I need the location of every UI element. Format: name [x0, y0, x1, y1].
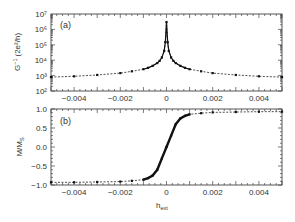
panel-b-label: (b)	[60, 116, 71, 126]
data-marker	[175, 62, 177, 64]
data-marker	[281, 76, 283, 78]
ylabel-b-sub: S	[19, 137, 25, 141]
data-marker	[212, 72, 214, 74]
data-marker	[96, 74, 98, 76]
data-marker	[184, 115, 186, 117]
data-marker	[156, 169, 158, 171]
data-marker	[163, 50, 165, 52]
x-tick-label: 0.004	[249, 94, 270, 103]
data-marker	[200, 112, 202, 114]
data-marker	[235, 111, 237, 113]
data-marker	[50, 181, 52, 183]
data-marker	[170, 56, 172, 58]
data-marker	[165, 146, 167, 148]
data-marker	[235, 74, 237, 76]
y-tick-label: 10⁴	[35, 56, 48, 65]
xlabel-sub: ext	[161, 205, 169, 211]
svg-text:G−1(2e²/h): G−1(2e²/h)	[12, 33, 22, 71]
y-tick-label: 0.5	[36, 124, 48, 133]
ylabel-b-main: M/M	[15, 141, 24, 157]
data-marker	[258, 111, 260, 113]
series-core	[143, 22, 189, 69]
data-marker	[165, 21, 167, 23]
data-marker	[164, 41, 166, 43]
ylabel-a-sup: −1	[12, 59, 18, 65]
data-marker	[131, 70, 133, 72]
data-marker	[172, 60, 174, 62]
data-marker	[212, 111, 214, 113]
data-marker	[189, 113, 191, 115]
data-marker	[179, 117, 181, 119]
data-marker	[158, 60, 160, 62]
x-tick-label: −0.004	[62, 94, 87, 103]
x-tick-label: 0.004	[249, 188, 270, 197]
data-marker	[50, 76, 52, 78]
svg-text:M/MS: M/MS	[15, 137, 25, 157]
y-tick-label: 10⁷	[35, 10, 47, 19]
y-tick-label: −0.5	[31, 162, 47, 171]
data-marker	[131, 180, 133, 182]
panel-a-plot: −0.004−0.00200.0020.00410²10³10⁴10⁵10⁶10…	[35, 10, 283, 103]
x-tick-label: 0.002	[203, 188, 224, 197]
data-marker	[168, 50, 170, 52]
data-marker	[175, 123, 177, 125]
data-marker	[147, 177, 149, 179]
data-marker	[179, 65, 181, 67]
x-tick-label: 0	[164, 188, 169, 197]
x-tick-label: −0.002	[108, 94, 133, 103]
data-marker	[184, 67, 186, 69]
y-tick-label: 0.0	[36, 143, 48, 152]
y-tick-label: 10⁵	[35, 41, 47, 50]
data-marker	[142, 179, 144, 181]
data-marker	[73, 181, 75, 183]
y-tick-label: −1.0	[31, 181, 47, 190]
y-tick-label: 10³	[35, 72, 47, 81]
data-marker	[170, 135, 172, 137]
panel-a-label: (a)	[60, 20, 71, 30]
data-marker	[152, 65, 154, 67]
y-axis-label-a: G−1(2e²/h)	[12, 33, 22, 71]
data-marker	[258, 75, 260, 77]
data-marker	[156, 62, 158, 64]
data-marker	[161, 157, 163, 159]
figure: −0.004−0.00200.0020.00410²10³10⁴10⁵10⁶10…	[0, 0, 295, 222]
y-tick-label: 10⁶	[35, 25, 47, 34]
data-marker	[161, 56, 163, 58]
data-marker	[73, 75, 75, 77]
data-marker	[147, 67, 149, 69]
x-tick-label: 0.002	[203, 94, 224, 103]
data-marker	[152, 174, 154, 176]
data-marker	[167, 41, 169, 43]
data-marker	[142, 68, 144, 70]
y-tick-label: 10²	[35, 87, 47, 96]
data-marker	[200, 70, 202, 72]
x-tick-label: 0	[164, 94, 169, 103]
data-marker	[119, 72, 121, 74]
y-tick-label: 1.0	[36, 105, 48, 114]
data-marker	[96, 181, 98, 183]
data-marker	[281, 111, 283, 113]
y-axis-label-b: M/MS	[15, 137, 25, 157]
ylabel-a-unit: (2e²/h)	[13, 33, 22, 57]
data-marker	[189, 68, 191, 70]
x-tick-label: −0.002	[108, 188, 133, 197]
data-marker	[119, 180, 121, 182]
x-tick-label: −0.004	[62, 188, 87, 197]
x-axis-label: hext	[156, 201, 168, 211]
